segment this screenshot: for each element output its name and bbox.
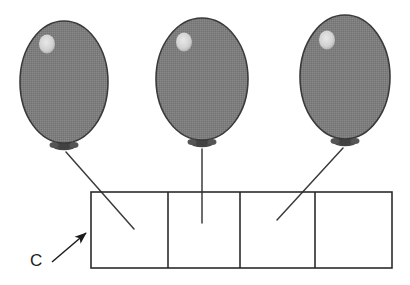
balloon-1-highlight-icon (39, 35, 55, 54)
callout-c-arrow-icon (52, 233, 86, 262)
balloon-2-highlight-icon (176, 33, 192, 52)
balloon-box-diagram: C (0, 0, 410, 285)
balloon-3-highlight-icon (319, 31, 335, 50)
callout-c-label: C (30, 251, 42, 270)
box-row-outline (91, 192, 392, 268)
balloon-1-body (20, 21, 108, 143)
callout-c: C (30, 233, 86, 270)
balloon-3-body (300, 15, 390, 139)
balloon-3 (277, 15, 390, 220)
box-row (91, 192, 392, 268)
balloon-2-body (156, 18, 248, 140)
figure-canvas: C (0, 0, 410, 285)
